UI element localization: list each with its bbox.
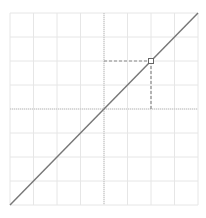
highlight-point-marker [149,59,154,64]
point-marker-icon [149,59,154,64]
function-plot [0,0,206,218]
